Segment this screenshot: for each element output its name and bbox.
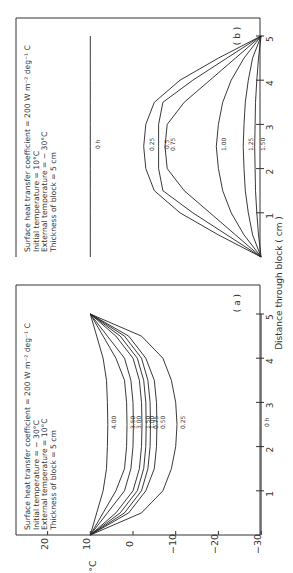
curve-label: 0 h [94,139,101,149]
distance-tick-label: 2 [265,447,275,453]
temp-tick-label: −10 [167,534,178,554]
curve-label: 4.00 [110,415,117,429]
temp-tick-label: −30 [252,534,263,554]
curve-label: 0.75 [169,137,176,151]
temp-tick-label: −20 [209,534,220,554]
temp-tick-label: 20 [39,538,50,550]
panel-tag: ( a ) [232,294,242,312]
curve-label: 1.50 [259,137,266,151]
curve-label: 0.25 [179,415,186,429]
curve-label: 1.00 [220,137,227,151]
curve-350 [90,314,127,535]
panel-a: 123450 h0.250.500.751.001.503.003.504.00… [16,285,275,535]
temperature-axis: 20100−10−20−30°C [16,531,263,572]
curve-label: 3.50 [129,415,136,429]
distance-tick-label: 5 [265,36,275,42]
temp-tick-label: 0 [124,541,135,547]
annotation-line: Thickness of block = 5 cm [49,430,58,531]
curve-label: 1.25 [247,137,254,151]
curve-400 [90,314,108,535]
distance-tick-label: 4 [265,80,275,86]
curve-label: 0.50 [159,415,166,429]
distance-tick-label: 3 [265,403,275,409]
temp-tick-label: 10 [81,538,92,550]
figure: 123450 h0.250.500.751.001.503.003.504.00… [0,0,293,573]
curve-label: 1.50 [144,415,151,429]
distance-tick-label: 1 [265,491,275,497]
curve-label: 3.00 [135,415,142,429]
curve-label: 0.25 [148,137,155,151]
y-axis-label: °C [87,560,98,572]
distance-tick-label: 2 [265,169,275,175]
curve-label: 0 h [263,417,270,427]
panel-tag: ( b ) [232,27,242,45]
panel-b: 123450 h0.250.50.751.001.251.50( b )Surf… [16,18,275,257]
distance-tick-label: 3 [265,125,275,131]
x-axis-label: Distance through block ( cm ) [274,216,284,350]
distance-tick-label: 4 [265,358,275,364]
annotation-line: Thickness of block = 5 cm [49,152,58,253]
